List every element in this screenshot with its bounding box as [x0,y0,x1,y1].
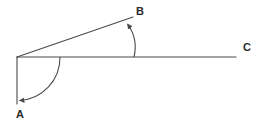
geometry-figure: A B C [0,0,264,126]
vertex-label-a: A [16,109,24,120]
ray-to-b [17,17,133,57]
vertex-label-b: B [136,6,144,17]
figure-canvas [0,0,264,126]
angle-arc-b [128,24,136,57]
vertex-label-c: C [243,42,251,53]
angle-arc-a [20,57,61,101]
